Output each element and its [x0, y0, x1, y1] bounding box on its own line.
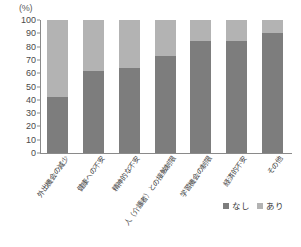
- legend-item[interactable]: あり: [257, 202, 284, 211]
- x-axis-line: [40, 153, 292, 154]
- bar-segment-ari[interactable]: [226, 20, 247, 41]
- bar-stack: [47, 20, 68, 153]
- x-axis-category-label: 学習機会の制限: [179, 155, 213, 199]
- bar-group[interactable]: [83, 20, 104, 153]
- x-axis-category-label: 外出機会の減少: [36, 155, 70, 199]
- y-axis-tick-mark: [37, 126, 40, 127]
- y-axis-tick-mark: [37, 139, 40, 140]
- bar-stack: [119, 20, 140, 153]
- bar-stack: [226, 20, 247, 153]
- x-axis-category-label: その他: [266, 155, 284, 177]
- bar-stack: [83, 20, 104, 153]
- bar-segment-nashi[interactable]: [83, 71, 104, 153]
- y-axis-tick-mark: [37, 33, 40, 34]
- bar-segment-ari[interactable]: [155, 20, 176, 56]
- legend-swatch-icon: [257, 203, 263, 209]
- bar-stack: [190, 20, 211, 153]
- bar-segment-nashi[interactable]: [119, 68, 140, 153]
- bar-segment-ari[interactable]: [47, 20, 68, 97]
- legend-label: あり: [266, 202, 284, 211]
- bar-group[interactable]: [47, 20, 68, 153]
- x-axis-label-group: 外出機会の減少健康への不安精神的な不安人（介護者）との接触制限学習機会の制限経済…: [0, 155, 301, 225]
- y-axis-unit-label: (%): [19, 3, 32, 13]
- bar-group[interactable]: [262, 20, 283, 153]
- y-axis-tick-mark: [37, 20, 40, 21]
- bar-group[interactable]: [190, 20, 211, 153]
- plot-area: 0102030405060708090100: [40, 20, 290, 153]
- stacked-bar-chart: (%) 0102030405060708090100 外出機会の減少健康への不安…: [0, 0, 301, 247]
- bar-segment-nashi[interactable]: [226, 41, 247, 153]
- bar-stack: [155, 20, 176, 153]
- legend-label: なし: [232, 202, 250, 211]
- bar-group[interactable]: [155, 20, 176, 153]
- legend-swatch-icon: [223, 203, 229, 209]
- x-axis-category-label: 経済的不安: [223, 155, 249, 188]
- bar-segment-ari[interactable]: [83, 20, 104, 71]
- bar-segment-nashi[interactable]: [155, 56, 176, 153]
- y-axis-tick-mark: [37, 153, 40, 154]
- y-axis-tick-mark: [37, 99, 40, 100]
- x-axis-category-label: 精神的な不安: [112, 155, 142, 193]
- bar-group[interactable]: [119, 20, 140, 153]
- bar-group[interactable]: [226, 20, 247, 153]
- y-axis-tick-mark: [37, 46, 40, 47]
- bar-segment-ari[interactable]: [262, 20, 283, 33]
- chart-legend: なしあり: [223, 202, 284, 211]
- bar-segment-nashi[interactable]: [262, 33, 283, 153]
- y-axis-tick-mark: [37, 113, 40, 114]
- y-axis-tick-mark: [37, 73, 40, 74]
- bar-segment-nashi[interactable]: [47, 97, 68, 153]
- bar-segment-ari[interactable]: [119, 20, 140, 68]
- y-axis-tick-mark: [37, 59, 40, 60]
- y-axis-tick-mark: [37, 86, 40, 87]
- x-axis-category-label: 健康への不安: [76, 155, 106, 193]
- bar-stack: [262, 20, 283, 153]
- legend-item[interactable]: なし: [223, 202, 250, 211]
- bar-segment-ari[interactable]: [190, 20, 211, 41]
- bar-segment-nashi[interactable]: [190, 41, 211, 153]
